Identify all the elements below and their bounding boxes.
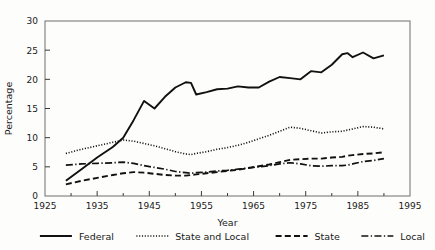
x-tick-label: 1995: [399, 201, 422, 211]
x-tick-label: 1955: [190, 201, 213, 211]
y-tick-label: 25: [27, 46, 38, 56]
x-tick-label: 1975: [294, 201, 317, 211]
y-axis-title: Percentage: [3, 82, 14, 136]
y-tick-label: 10: [27, 133, 39, 143]
series-line-local: [66, 159, 384, 174]
x-tick-label: 1925: [34, 201, 57, 211]
legend-label-federal: Federal: [79, 231, 114, 242]
y-tick-label: 5: [32, 162, 38, 172]
x-axis-title: Year: [216, 217, 237, 228]
x-tick-label: 1935: [86, 201, 109, 211]
legend-label-local: Local: [400, 231, 425, 242]
series-line-state: [66, 152, 384, 184]
x-tick-label: 1985: [346, 201, 369, 211]
y-tick-label: 30: [27, 16, 39, 26]
legend-label-state: State: [315, 231, 340, 242]
x-tick-label: 1965: [242, 201, 265, 211]
y-tick-label: 15: [27, 104, 38, 114]
line-chart: 0510152025301925193519451955196519751985…: [0, 0, 435, 250]
y-tick-label: 0: [32, 191, 38, 201]
series-line-state-and-local: [66, 127, 384, 155]
x-tick-label: 1945: [138, 201, 161, 211]
series-line-federal: [66, 53, 384, 181]
y-tick-label: 20: [27, 75, 39, 85]
legend-label-state-and-local: State and Local: [175, 231, 249, 242]
chart-figure: 0510152025301925193519451955196519751985…: [0, 0, 435, 250]
